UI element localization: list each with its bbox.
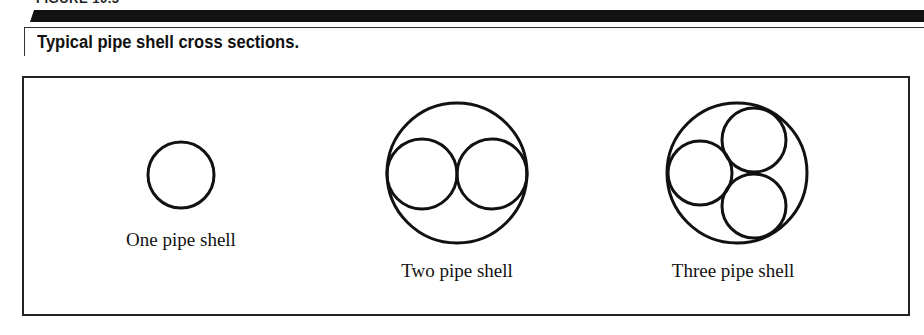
outer-shell-circle bbox=[667, 103, 807, 243]
one-pipe-shell-diagram bbox=[148, 142, 214, 208]
pipe-diagrams bbox=[0, 0, 924, 335]
label-three-pipe-shell: Three pipe shell bbox=[672, 260, 794, 282]
inner-pipe-circle bbox=[722, 174, 786, 238]
two-pipe-shell-diagram bbox=[387, 103, 527, 243]
outer-shell-circle bbox=[148, 142, 214, 208]
inner-pipe-circle bbox=[387, 139, 457, 209]
label-two-pipe-shell: Two pipe shell bbox=[401, 260, 513, 282]
inner-pipe-circle bbox=[457, 139, 527, 209]
three-pipe-shell-diagram bbox=[667, 103, 807, 243]
inner-pipe-circle bbox=[722, 108, 786, 172]
label-one-pipe-shell: One pipe shell bbox=[126, 229, 236, 251]
